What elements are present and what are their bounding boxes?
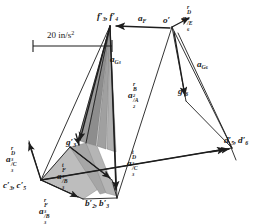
scale-bar-label: 20 in/s2 <box>47 30 74 40</box>
label-a-G3: aG3 <box>110 55 121 65</box>
label-d5-d6-prime: d′5, d′6 <box>224 136 248 146</box>
label-o-prime: o′ <box>163 16 170 25</box>
shaded-parallelogram <box>41 143 117 199</box>
label-a-r-F3-B3: arF3/B3 <box>39 198 49 224</box>
scale-bar <box>33 40 112 52</box>
acceleration-polygon-figure: 20 in/s2 f′3, f′4 aF o′ arD6/E6 aG3 aG6 … <box>0 0 262 224</box>
label-a-t-D3-C3: atD3/C3 <box>127 150 137 177</box>
label-g6-prime: g′6 <box>178 87 188 97</box>
label-a-t-F3-B3: atF3/B3 <box>57 163 67 190</box>
label-a-r-D3-C3: arD3/C3 <box>6 146 16 173</box>
label-g3-prime: g′3 <box>66 138 76 148</box>
label-f3-f4-prime: f′3, f′4 <box>97 12 118 22</box>
label-b2-b3-prime: b′2, b′3 <box>85 199 109 209</box>
label-a-G6: aG6 <box>197 60 208 70</box>
vector-a-r-D3-C3 <box>29 143 41 180</box>
label-a-r-B2-A2: arB2/A2 <box>128 82 138 109</box>
label-a-F: aF <box>138 14 146 24</box>
figure-canvas <box>0 0 262 224</box>
vector-aF <box>116 26 170 28</box>
label-a-r-D6-E6: arD6/E6 <box>182 5 192 32</box>
label-c3-c5-prime: c′3, c′5 <box>3 181 26 191</box>
